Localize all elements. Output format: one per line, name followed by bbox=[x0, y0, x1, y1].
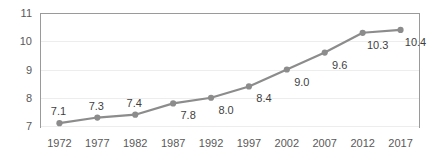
x-axis-tick-label: 2012 bbox=[350, 137, 374, 149]
y-axis-tick-label: 9 bbox=[26, 64, 32, 76]
data-point-marker bbox=[360, 30, 366, 36]
data-point-label: 9.6 bbox=[332, 59, 347, 71]
chart-background bbox=[0, 0, 448, 159]
data-point-label: 8.4 bbox=[256, 92, 271, 104]
line-chart: 7891011 7.17.37.47.88.08.49.09.610.310.4… bbox=[0, 0, 448, 159]
x-axis-tick-label: 1987 bbox=[161, 137, 185, 149]
x-axis-tick-label: 1977 bbox=[85, 137, 109, 149]
data-point-marker bbox=[132, 112, 138, 118]
data-point-marker bbox=[94, 114, 100, 120]
data-point-label: 7.1 bbox=[51, 105, 66, 117]
data-point-label: 7.4 bbox=[127, 97, 142, 109]
x-axis-tick-label: 1997 bbox=[237, 137, 261, 149]
data-point-marker bbox=[208, 95, 214, 101]
x-axis-tick-label: 1972 bbox=[47, 137, 71, 149]
data-point-marker bbox=[246, 83, 252, 89]
data-point-label: 10.3 bbox=[367, 39, 388, 51]
data-point-label: 7.3 bbox=[89, 100, 104, 112]
y-axis-tick-label: 8 bbox=[26, 92, 32, 104]
data-point-label: 10.4 bbox=[405, 36, 426, 48]
x-axis-tick-label: 2002 bbox=[275, 137, 299, 149]
data-point-marker bbox=[284, 66, 290, 72]
data-point-marker bbox=[322, 49, 328, 55]
y-axis-tick-label: 10 bbox=[20, 35, 32, 47]
x-axis-tick-label: 1992 bbox=[199, 137, 223, 149]
data-point-label: 8.0 bbox=[218, 104, 233, 116]
data-point-label: 7.8 bbox=[181, 109, 196, 121]
data-point-marker bbox=[397, 27, 403, 33]
y-axis-tick-label: 11 bbox=[21, 7, 32, 19]
chart-canvas: 7891011 7.17.37.47.88.08.49.09.610.310.4… bbox=[0, 0, 448, 159]
data-point-marker bbox=[56, 120, 62, 126]
x-axis-tick-label: 1982 bbox=[123, 137, 147, 149]
data-point-marker bbox=[170, 100, 176, 106]
y-axis-tick-label: 7 bbox=[26, 120, 32, 132]
x-axis-tick-label: 2017 bbox=[388, 137, 412, 149]
x-axis-tick-label: 2007 bbox=[313, 137, 337, 149]
data-point-label: 9.0 bbox=[294, 76, 309, 88]
